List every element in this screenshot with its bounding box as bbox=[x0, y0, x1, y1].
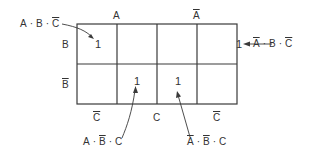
column-footer-not-c-left: C bbox=[93, 113, 100, 123]
term-var: B bbox=[269, 39, 276, 49]
term-var-negated: B bbox=[203, 137, 210, 147]
term-var-negated: A bbox=[187, 137, 194, 147]
and-dot: · bbox=[213, 137, 216, 147]
cell-r2-c3: 1 bbox=[175, 76, 181, 87]
term-var: A bbox=[83, 137, 90, 147]
term-var-negated: A bbox=[253, 39, 260, 49]
term-var-negated: B bbox=[99, 137, 106, 147]
column-header-not-a: A bbox=[193, 11, 200, 21]
karnaugh-map-diagram: A A B B C C C 1 1 1 1 A·B·C A·B·C A·B·C … bbox=[0, 0, 309, 156]
term-var: C bbox=[115, 137, 122, 147]
row-header-not-b: B bbox=[62, 80, 69, 90]
and-dot: · bbox=[279, 39, 282, 49]
and-dot: · bbox=[263, 39, 266, 49]
term-nota-notb-c: A·B·C bbox=[187, 137, 226, 147]
and-dot: · bbox=[93, 137, 96, 147]
term-var: A bbox=[20, 19, 27, 29]
column-header-a: A bbox=[113, 11, 120, 21]
term-var: C bbox=[219, 137, 226, 147]
term-var-negated: C bbox=[285, 39, 292, 49]
cell-r2-c2: 1 bbox=[134, 76, 140, 87]
and-dot: · bbox=[30, 19, 33, 29]
cell-r1-c1: 1 bbox=[95, 39, 101, 50]
column-footer-c: C bbox=[153, 113, 160, 123]
column-footer-not-c-right: C bbox=[213, 113, 220, 123]
and-dot: · bbox=[197, 137, 200, 147]
term-var: B bbox=[36, 19, 43, 29]
term-var-negated: C bbox=[52, 19, 59, 29]
term-nota-b-notc: A·B·C bbox=[253, 39, 292, 49]
and-dot: · bbox=[109, 137, 112, 147]
cell-r1-c4: 1 bbox=[236, 39, 242, 50]
term-a-notb-c: A·B·C bbox=[83, 137, 122, 147]
term-a-b-notc: A·B·C bbox=[20, 19, 59, 29]
and-dot: · bbox=[46, 19, 49, 29]
row-header-b: B bbox=[62, 40, 69, 50]
